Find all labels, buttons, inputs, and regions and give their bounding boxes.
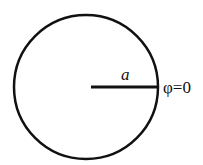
radius-label: a: [121, 65, 130, 84]
boundary-potential-label: φ=0: [163, 78, 191, 97]
diagram-canvas: a φ=0: [0, 0, 203, 165]
